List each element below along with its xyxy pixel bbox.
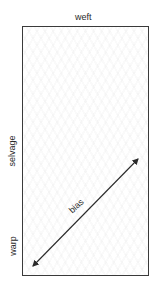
- weft-label: weft: [75, 12, 92, 22]
- selvage-label: selvage: [7, 135, 17, 166]
- warp-label: warp: [8, 236, 18, 256]
- fabric-rectangle: [22, 26, 149, 276]
